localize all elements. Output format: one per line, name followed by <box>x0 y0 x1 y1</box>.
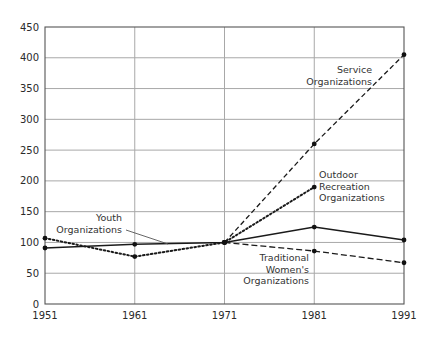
x-tick-label: 1991 <box>391 310 416 321</box>
data-point <box>402 52 407 57</box>
data-point <box>402 260 407 265</box>
data-point <box>312 142 317 147</box>
y-tick-label: 50 <box>26 268 39 279</box>
x-tick-label: 1961 <box>122 310 147 321</box>
x-axis-ticks: 19511961197119811991 <box>32 310 416 321</box>
data-point <box>312 185 317 190</box>
data-point <box>43 246 48 251</box>
data-point <box>132 254 137 259</box>
series-labels: ServiceOrganizationsOutdoorRecreationOrg… <box>56 64 384 286</box>
x-tick-label: 1971 <box>212 310 237 321</box>
data-point <box>312 249 317 254</box>
data-point <box>43 236 48 241</box>
y-tick-label: 350 <box>20 83 39 94</box>
y-tick-label: 400 <box>20 52 39 63</box>
y-tick-label: 200 <box>20 175 39 186</box>
y-tick-label: 150 <box>20 206 39 217</box>
youth-label-leader-line <box>126 230 168 244</box>
y-axis-ticks: 050100150200250300350400450 <box>20 22 39 310</box>
data-point <box>312 225 317 230</box>
y-tick-label: 100 <box>20 237 39 248</box>
x-tick-label: 1981 <box>302 310 327 321</box>
data-point <box>222 240 227 245</box>
line-chart: 050100150200250300350400450 195119611971… <box>0 0 430 341</box>
y-tick-label: 450 <box>20 22 39 33</box>
y-tick-label: 0 <box>33 299 39 310</box>
y-tick-label: 250 <box>20 145 39 156</box>
data-point <box>132 242 137 247</box>
y-tick-label: 300 <box>20 114 39 125</box>
series-label: OutdoorRecreationOrganizations <box>319 169 385 203</box>
x-tick-label: 1951 <box>32 310 57 321</box>
series-label: YouthOrganizations <box>56 212 122 235</box>
series-label: TraditionalWomen'sOrganizations <box>243 252 309 286</box>
data-point <box>402 238 407 243</box>
series-label: ServiceOrganizations <box>306 64 372 87</box>
